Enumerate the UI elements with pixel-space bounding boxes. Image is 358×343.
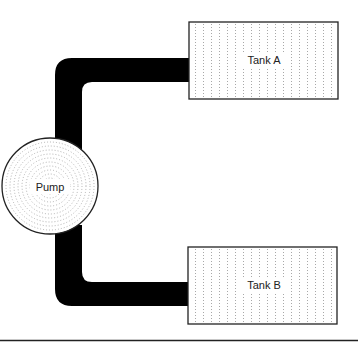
pipe-to-tank-b (55, 225, 190, 306)
pump-node: Pump (2, 138, 98, 234)
tank-a-label: Tank A (247, 54, 281, 66)
pipe-to-tank-a (55, 58, 190, 150)
pump-tank-diagram: Pump Tank A Tank B (0, 0, 358, 343)
tank-a-node: Tank A (189, 22, 338, 99)
pump-label: Pump (36, 181, 65, 193)
tank-b-node: Tank B (188, 247, 337, 324)
tank-b-label: Tank B (247, 279, 281, 291)
